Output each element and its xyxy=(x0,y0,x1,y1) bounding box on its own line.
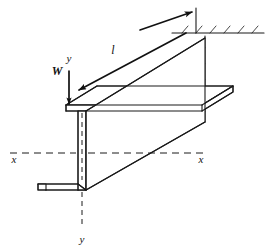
axis-x-label-left: x xyxy=(11,153,17,165)
load-label: W xyxy=(52,64,64,78)
figure-canvas: l W y y x x xyxy=(0,0,269,250)
support-pointer-arrow xyxy=(140,12,192,30)
beam-diagram-svg: l W y y x x xyxy=(0,0,269,250)
web-side-face xyxy=(86,38,205,190)
bottom-flange-front-edge xyxy=(38,184,46,190)
length-label: l xyxy=(111,43,115,57)
load-indicator: W xyxy=(52,64,69,104)
axis-x-label-right: x xyxy=(198,153,204,165)
axis-y-label-bottom: y xyxy=(79,233,85,245)
fixed-support-top xyxy=(140,8,264,33)
axis-y-label-top: y xyxy=(66,52,72,64)
support-hatching-top xyxy=(182,26,258,33)
